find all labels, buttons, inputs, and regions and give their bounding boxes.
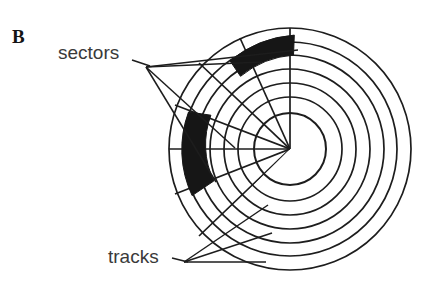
leader-sectors-stem — [132, 60, 150, 66]
figure-panel-b: B — [0, 0, 432, 291]
leader-lines-sectors — [132, 50, 298, 182]
leader-tracks-stem — [172, 258, 188, 262]
leader-tracks-to-track-a — [184, 205, 268, 262]
sector-divider-ul-2 — [199, 63, 290, 149]
tracks-label: tracks — [108, 246, 159, 268]
sectors-label: sectors — [58, 42, 119, 64]
sector-divider-ll-2 — [199, 149, 290, 236]
sector-highlight-top — [230, 35, 294, 76]
leader-tracks-to-track-b — [184, 233, 272, 262]
